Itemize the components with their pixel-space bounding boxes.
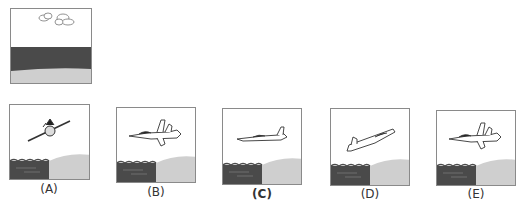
sea-band (11, 47, 92, 71)
airplane-climbing-icon (347, 129, 395, 151)
option-c-label: (C) (222, 187, 302, 201)
airplane-side-icon (237, 127, 287, 141)
option-b-scene (117, 108, 196, 183)
cloud-icon (39, 13, 74, 25)
option-b-panel[interactable] (116, 107, 196, 183)
airplane-side-icon (129, 120, 181, 146)
option-d-label: (D) (330, 187, 410, 201)
option-e-panel[interactable] (436, 110, 516, 186)
reference-panel (10, 8, 92, 84)
option-d-panel[interactable] (330, 108, 410, 186)
ground-band (11, 68, 92, 84)
option-a-scene (10, 105, 90, 180)
option-e-scene (437, 111, 516, 186)
airplane-side-icon (449, 123, 501, 149)
option-a-label: (A) (9, 182, 89, 196)
reference-scene (11, 9, 92, 84)
airplane-front-icon (28, 119, 70, 141)
option-b-label: (B) (116, 185, 196, 199)
option-d-scene (331, 109, 410, 186)
option-e-label: (E) (436, 187, 516, 201)
option-a-panel[interactable] (9, 104, 90, 180)
option-c-scene (223, 109, 302, 185)
option-c-panel[interactable] (222, 108, 302, 185)
